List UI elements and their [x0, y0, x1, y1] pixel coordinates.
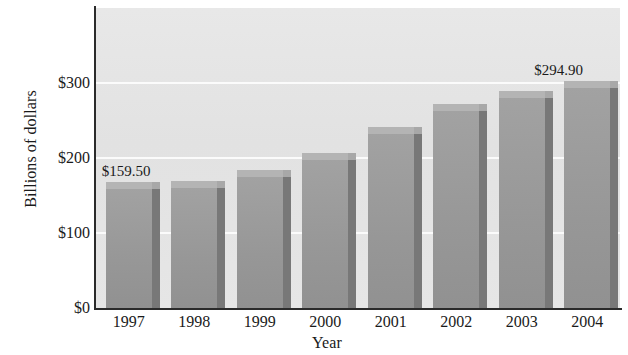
x-axis-tick-label: 2002 — [424, 313, 490, 331]
x-axis-tick-label: 2001 — [358, 313, 424, 331]
y-axis-line — [94, 6, 96, 310]
plot-area: $159.50$294.90 — [96, 8, 620, 308]
y-axis-tick-labels: $0$100$200$300 — [32, 0, 90, 355]
y-axis-tick-label: $100 — [34, 225, 90, 241]
x-axis-title-text: Year — [286, 334, 342, 352]
x-axis-line — [94, 308, 622, 310]
bar-top-face — [237, 170, 283, 177]
bar-front-face — [237, 176, 283, 308]
x-axis-tick-label: 1997 — [96, 313, 162, 331]
bar-chart: Billions of dollars $0$100$200$300 $159.… — [0, 0, 628, 355]
x-axis-tick-label: 1999 — [227, 313, 293, 331]
x-axis-tick-label: 2004 — [555, 313, 621, 331]
bar-top-side-face — [283, 170, 291, 177]
bar-top-side-face — [348, 153, 356, 160]
bar — [237, 176, 283, 308]
bar-top-side-face — [545, 91, 553, 98]
bar-front-face — [171, 187, 217, 308]
bar-side-face — [610, 88, 618, 308]
y-axis-tick-label: $200 — [34, 150, 90, 166]
bar-front-face — [433, 110, 479, 308]
bar-top-face — [433, 104, 479, 111]
bar — [368, 133, 414, 308]
bar-top-side-face — [217, 181, 225, 188]
bar — [302, 159, 348, 308]
bar-side-face — [152, 189, 160, 308]
bar-top-side-face — [414, 127, 422, 134]
gridline — [96, 82, 620, 84]
bar-side-face — [348, 160, 356, 308]
x-axis-tick-label: 2000 — [293, 313, 359, 331]
bar-side-face — [217, 188, 225, 308]
bar-top-face — [171, 181, 217, 188]
bar-top-face — [499, 91, 545, 98]
x-axis-tick-label: 1998 — [162, 313, 228, 331]
bar — [171, 187, 217, 308]
bar-top-side-face — [610, 81, 618, 88]
bar — [499, 97, 545, 308]
bar-front-face — [499, 97, 545, 308]
bar-front-face — [368, 133, 414, 308]
y-axis-tick-label: $300 — [34, 75, 90, 91]
bar-top-face — [302, 153, 348, 160]
bar-front-face — [302, 159, 348, 308]
y-axis-tick-label: $0 — [34, 300, 90, 316]
bar-value-label: $159.50 — [102, 164, 151, 179]
bar-value-label: $294.90 — [534, 63, 583, 78]
bar-side-face — [283, 177, 291, 308]
bar-top-face — [368, 127, 414, 134]
x-axis-tick-label: 2003 — [489, 313, 555, 331]
bar-top-side-face — [152, 182, 160, 189]
bar-top-face — [564, 81, 610, 88]
bar-top-side-face — [479, 104, 487, 111]
bar — [106, 188, 152, 308]
bar-top-face — [106, 182, 152, 189]
bar — [564, 87, 610, 308]
bar-front-face — [106, 188, 152, 308]
bar-side-face — [479, 111, 487, 308]
bar-side-face — [545, 98, 553, 308]
bar-side-face — [414, 134, 422, 308]
bar-front-face — [564, 87, 610, 308]
bar — [433, 110, 479, 308]
x-axis-title: Year — [0, 334, 628, 352]
